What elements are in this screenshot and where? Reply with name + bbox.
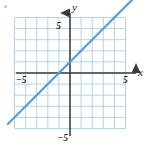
y-axis-tick-5: 5 [56,21,61,31]
corner-dot-icon [4,5,7,8]
coordinate-plane-figure: y x 5 −5 −5 5 [0,0,148,146]
x-axis-label: x [137,66,143,78]
y-axis-tick-minus-5: −5 [57,133,68,143]
y-axis-label: y [71,1,77,13]
x-axis-tick-5: 5 [123,75,128,85]
x-axis-tick-minus-5: −5 [16,75,27,85]
graph-svg: y x 5 −5 −5 5 [0,0,148,146]
